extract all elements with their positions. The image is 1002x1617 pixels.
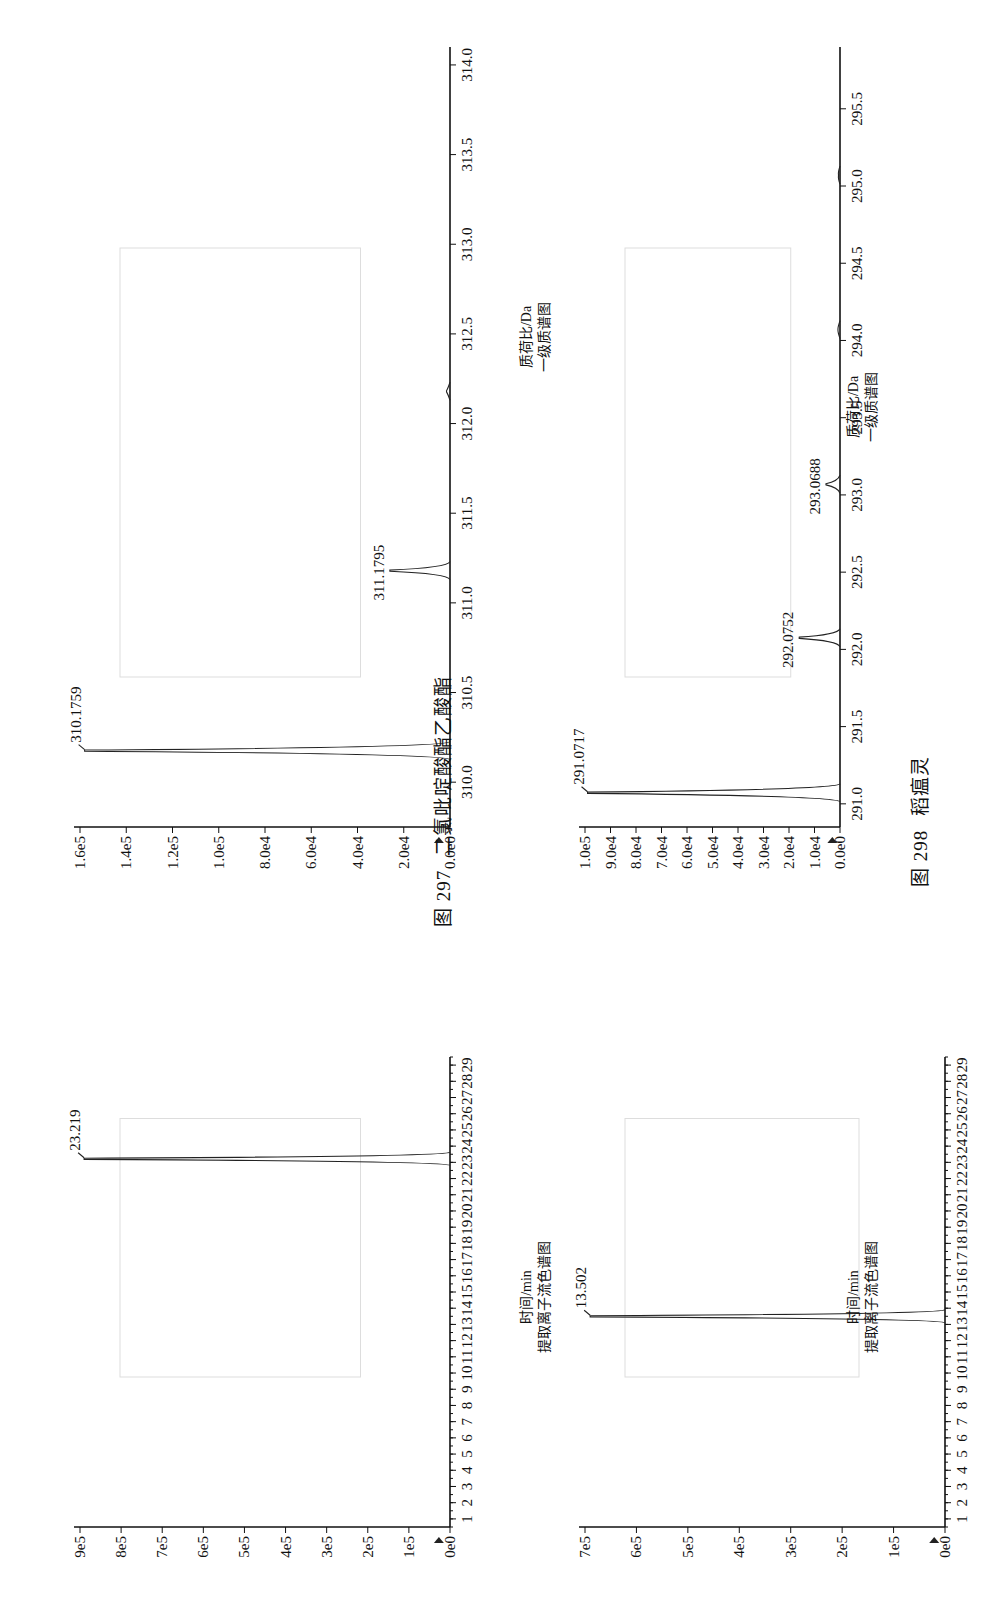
svg-text:6.0e4: 6.0e4 [679, 836, 695, 869]
fig297-caption-text: 图 297二氯吡啶酸酯乙酸酯 [428, 676, 455, 927]
svg-text:7e5: 7e5 [154, 1536, 170, 1558]
svg-text:28: 28 [459, 1074, 475, 1089]
svg-text:5: 5 [954, 1450, 970, 1458]
svg-text:18: 18 [954, 1236, 970, 1251]
svg-text:310.5: 310.5 [459, 676, 475, 710]
svg-text:7.0e4: 7.0e4 [654, 836, 670, 869]
svg-text:310.0: 310.0 [459, 765, 475, 799]
svg-text:292.0: 292.0 [849, 633, 865, 667]
svg-text:5: 5 [459, 1450, 475, 1458]
svg-text:4e5: 4e5 [278, 1536, 294, 1558]
svg-text:13.502: 13.502 [573, 1267, 589, 1308]
svg-text:17: 17 [954, 1252, 970, 1268]
svg-text:310.1759: 310.1759 [68, 686, 84, 742]
svg-text:3.0e4: 3.0e4 [756, 836, 772, 869]
svg-text:12: 12 [459, 1333, 475, 1348]
svg-text:6: 6 [954, 1434, 970, 1442]
spectrum-xlabel: 质荷比/Da 一级质谱图 [845, 307, 881, 507]
svg-text:2: 2 [459, 1499, 475, 1507]
svg-text:3e5: 3e5 [783, 1536, 799, 1558]
svg-text:7: 7 [954, 1417, 970, 1425]
svg-text:311.5: 311.5 [459, 497, 475, 530]
svg-text:6e5: 6e5 [195, 1536, 211, 1558]
svg-text:313.5: 313.5 [459, 138, 475, 172]
svg-text:19: 19 [459, 1220, 475, 1235]
svg-text:313.0: 313.0 [459, 227, 475, 261]
svg-text:11: 11 [954, 1350, 970, 1364]
chromatogram-plot: 7e56e55e54e53e52e51e50e01234567891011121… [545, 1037, 985, 1597]
svg-text:292.5: 292.5 [849, 555, 865, 589]
svg-text:29: 29 [954, 1058, 970, 1073]
svg-text:3e5: 3e5 [319, 1536, 335, 1558]
svg-text:20: 20 [459, 1203, 475, 1218]
svg-text:21: 21 [954, 1187, 970, 1202]
svg-text:292.0752: 292.0752 [780, 612, 796, 668]
svg-text:26: 26 [954, 1106, 970, 1122]
chromatogram-plot: 9e58e57e56e55e54e53e52e51e50e01234567891… [60, 1037, 510, 1597]
svg-text:1.0e4: 1.0e4 [807, 836, 823, 869]
svg-text:13: 13 [954, 1317, 970, 1332]
svg-text:23: 23 [459, 1155, 475, 1170]
svg-text:13: 13 [459, 1317, 475, 1332]
svg-text:3: 3 [459, 1483, 475, 1491]
fig298-caption: 图 298稻瘟灵 [905, 756, 932, 887]
figure-number: 图 297 [433, 870, 454, 927]
svg-text:311.0: 311.0 [459, 586, 475, 619]
svg-text:8e5: 8e5 [113, 1536, 129, 1558]
svg-text:4: 4 [954, 1466, 970, 1474]
svg-text:27: 27 [954, 1090, 970, 1106]
svg-text:18: 18 [459, 1236, 475, 1251]
svg-text:22: 22 [459, 1171, 475, 1186]
svg-text:14: 14 [459, 1300, 475, 1316]
svg-text:2.0e4: 2.0e4 [396, 836, 412, 869]
svg-text:4.0e4: 4.0e4 [350, 836, 366, 869]
svg-text:20: 20 [954, 1203, 970, 1218]
svg-text:24: 24 [954, 1138, 970, 1154]
svg-text:7e5: 7e5 [577, 1536, 593, 1558]
figure-number: 图 298 [910, 830, 931, 887]
svg-text:24: 24 [459, 1138, 475, 1154]
svg-text:23.219: 23.219 [67, 1110, 83, 1151]
svg-text:291.0: 291.0 [849, 787, 865, 821]
svg-text:7: 7 [459, 1417, 475, 1425]
svg-text:312.0: 312.0 [459, 407, 475, 441]
svg-text:311.1795: 311.1795 [371, 545, 387, 601]
svg-text:25: 25 [954, 1122, 970, 1137]
svg-text:3: 3 [954, 1483, 970, 1491]
fig297-chromatogram: 9e58e57e56e55e54e53e52e51e50e01234567891… [60, 1037, 510, 1597]
svg-text:2.0e4: 2.0e4 [781, 836, 797, 869]
svg-text:8.0e4: 8.0e4 [257, 836, 273, 869]
svg-text:5e5: 5e5 [236, 1536, 252, 1558]
svg-text:314.0: 314.0 [459, 48, 475, 82]
svg-text:1.4e5: 1.4e5 [118, 836, 134, 869]
svg-text:10: 10 [954, 1366, 970, 1381]
svg-text:9: 9 [954, 1385, 970, 1393]
svg-text:23: 23 [954, 1155, 970, 1170]
svg-text:15: 15 [954, 1285, 970, 1300]
svg-text:2e5: 2e5 [834, 1536, 850, 1558]
svg-text:29: 29 [459, 1058, 475, 1073]
svg-text:6: 6 [459, 1434, 475, 1442]
svg-text:11: 11 [459, 1350, 475, 1364]
svg-text:5.0e4: 5.0e4 [705, 836, 721, 869]
svg-text:15: 15 [459, 1285, 475, 1300]
chromatogram-xlabel: 时间/min 提取离子流色谱图 [845, 1197, 881, 1397]
svg-text:8: 8 [954, 1402, 970, 1410]
svg-text:1: 1 [954, 1515, 970, 1523]
svg-text:0e0: 0e0 [937, 1536, 953, 1558]
svg-text:1.2e5: 1.2e5 [165, 836, 181, 869]
svg-text:1.6e5: 1.6e5 [72, 836, 88, 869]
svg-text:5e5: 5e5 [680, 1536, 696, 1558]
svg-text:293.0688: 293.0688 [807, 458, 823, 514]
svg-text:14: 14 [954, 1300, 970, 1316]
svg-text:26: 26 [459, 1106, 475, 1122]
figure-title: 二氯吡啶酸酯乙酸酯 [433, 676, 454, 856]
svg-text:19: 19 [954, 1220, 970, 1235]
svg-text:6e5: 6e5 [628, 1536, 644, 1558]
svg-text:8.0e4: 8.0e4 [628, 836, 644, 869]
svg-text:1e5: 1e5 [401, 1536, 417, 1558]
svg-text:9: 9 [459, 1385, 475, 1393]
svg-text:6.0e4: 6.0e4 [303, 836, 319, 869]
svg-text:312.5: 312.5 [459, 317, 475, 351]
figure-title: 稻瘟灵 [910, 756, 931, 816]
